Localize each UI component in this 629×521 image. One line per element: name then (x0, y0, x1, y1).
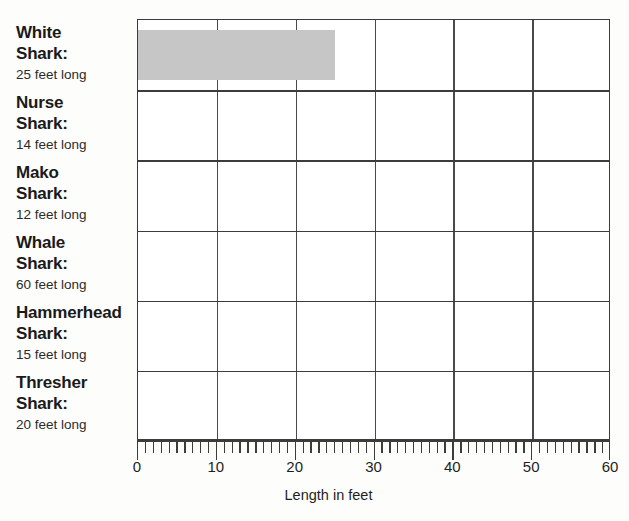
tick-2 (153, 442, 154, 453)
tick-52 (547, 442, 548, 453)
category-label-2: NurseShark:14 feet long (16, 92, 140, 154)
tick-14 (247, 442, 248, 453)
tick-label-0: 0 (133, 458, 141, 475)
tick-12 (232, 442, 233, 453)
tick-24 (326, 442, 327, 453)
tick-51 (539, 442, 540, 453)
tick-28 (358, 442, 359, 453)
tick-59 (602, 442, 603, 453)
tick-48 (515, 442, 516, 453)
tick-43 (476, 442, 477, 453)
tick-17 (271, 442, 272, 453)
tick-58 (594, 442, 595, 453)
category-value-label: 20 feet long (16, 415, 140, 434)
tick-33 (397, 442, 398, 453)
tick-4 (169, 442, 170, 453)
category-name-line1: Mako (16, 162, 140, 183)
tick-23 (318, 442, 319, 453)
tick-47 (508, 442, 509, 453)
category-value-label: 60 feet long (16, 275, 140, 294)
row-separator-3 (138, 231, 609, 232)
tick-25 (334, 442, 335, 453)
category-name-line2: Shark: (16, 183, 140, 204)
category-label-5: HammerheadShark:15 feet long (16, 302, 140, 364)
tick-8 (200, 442, 201, 453)
row-separator-4 (138, 301, 609, 302)
tick-55 (571, 442, 572, 453)
tick-label-50: 50 (523, 458, 540, 475)
vertical-gridline-10 (217, 20, 218, 439)
row-separator-5 (138, 371, 609, 372)
tick-41 (460, 442, 461, 453)
category-name-line2: Shark: (16, 393, 140, 414)
row-separator-1 (138, 90, 609, 91)
category-value-label: 14 feet long (16, 135, 140, 154)
tick-22 (310, 442, 311, 453)
category-label-1: WhiteShark:25 feet long (16, 22, 140, 84)
tick-label-60: 60 (602, 458, 619, 475)
plot-area (137, 19, 610, 440)
x-axis-tick-labels: 0102030405060 (137, 458, 610, 482)
tick-36 (421, 442, 422, 453)
tick-6 (184, 442, 185, 453)
category-name-line2: Shark: (16, 253, 140, 274)
tick-35 (413, 442, 414, 453)
category-name-line2: Shark: (16, 113, 140, 134)
tick-26 (342, 442, 343, 453)
tick-11 (224, 442, 225, 453)
tick-46 (500, 442, 501, 453)
tick-34 (405, 442, 406, 453)
tick-49 (523, 442, 524, 453)
tick-18 (279, 442, 280, 453)
bar-1 (138, 30, 335, 80)
tick-19 (287, 442, 288, 453)
tick-1 (145, 442, 146, 453)
category-name-line1: Whale (16, 232, 140, 253)
category-name-line2: Shark: (16, 323, 140, 344)
category-label-3: MakoShark:12 feet long (16, 162, 140, 224)
tick-38 (437, 442, 438, 453)
category-name-line1: Thresher (16, 372, 140, 393)
tick-44 (484, 442, 485, 453)
category-value-label: 12 feet long (16, 205, 140, 224)
tick-42 (468, 442, 469, 453)
tick-32 (389, 442, 390, 453)
tick-15 (255, 442, 256, 453)
vertical-gridline-30 (375, 20, 376, 439)
category-name-line2: Shark: (16, 43, 140, 64)
tick-16 (263, 442, 264, 453)
tick-3 (161, 442, 162, 453)
tick-13 (239, 442, 240, 453)
category-label-6: ThresherShark:20 feet long (16, 372, 140, 434)
tick-31 (381, 442, 382, 453)
tick-label-40: 40 (444, 458, 461, 475)
tick-53 (555, 442, 556, 453)
tick-37 (429, 442, 430, 453)
vertical-gridline-50 (532, 20, 533, 439)
x-axis-title: Length in feet (0, 487, 629, 503)
vertical-gridline-40 (453, 20, 454, 439)
shark-length-bar-chart: WhiteShark:25 feet longNurseShark:14 fee… (0, 0, 629, 521)
tick-5 (176, 442, 177, 453)
category-name-line1: White (16, 22, 140, 43)
tick-57 (586, 442, 587, 453)
tick-9 (208, 442, 209, 453)
row-separator-2 (138, 160, 609, 161)
category-value-label: 15 feet long (16, 345, 140, 364)
tick-7 (192, 442, 193, 453)
category-value-label: 25 feet long (16, 65, 140, 84)
tick-56 (578, 442, 579, 453)
tick-29 (366, 442, 367, 453)
tick-45 (492, 442, 493, 453)
x-axis-title-text: Length in feet (257, 487, 373, 503)
tick-label-30: 30 (365, 458, 382, 475)
tick-label-20: 20 (286, 458, 303, 475)
category-label-column: WhiteShark:25 feet longNurseShark:14 fee… (0, 0, 136, 440)
vertical-gridline-20 (296, 20, 297, 439)
tick-27 (350, 442, 351, 453)
category-label-4: WhaleShark:60 feet long (16, 232, 140, 294)
tick-21 (303, 442, 304, 453)
category-name-line1: Hammerhead (16, 302, 140, 323)
tick-label-10: 10 (207, 458, 224, 475)
tick-54 (563, 442, 564, 453)
